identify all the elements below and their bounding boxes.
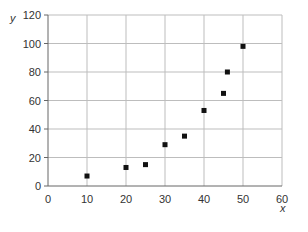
x-tick-label: 40	[198, 193, 210, 205]
data-point-marker	[202, 108, 207, 113]
data-point-marker	[241, 44, 246, 49]
y-tick-label: 40	[29, 123, 41, 135]
x-tick-labels: 0102030405060	[45, 193, 288, 205]
data-point-marker	[163, 142, 168, 147]
x-tick-label: 30	[159, 193, 171, 205]
x-tick-label: 0	[45, 193, 51, 205]
data-point-marker	[124, 165, 129, 170]
x-tick-label: 20	[120, 193, 132, 205]
x-axis-label: x	[279, 202, 286, 214]
data-point-marker	[221, 91, 226, 96]
scatter-chart: 0102030405060 020406080100120 y x	[0, 0, 308, 232]
grid-lines	[48, 15, 282, 186]
data-point-marker	[182, 134, 187, 139]
y-axis-label: y	[9, 12, 17, 24]
data-point-marker	[143, 162, 148, 167]
x-tick-label: 10	[81, 193, 93, 205]
y-tick-label: 60	[29, 95, 41, 107]
y-tick-label: 80	[29, 66, 41, 78]
y-tick-label: 0	[35, 180, 41, 192]
y-tick-label: 120	[23, 9, 41, 21]
y-tick-labels: 020406080100120	[23, 9, 41, 192]
y-tick-label: 20	[29, 152, 41, 164]
x-tick-label: 50	[237, 193, 249, 205]
data-point-marker	[225, 70, 230, 75]
y-tick-label: 100	[23, 38, 41, 50]
data-point-marker	[85, 174, 90, 179]
